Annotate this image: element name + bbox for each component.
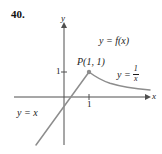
point-P	[87, 70, 91, 74]
y-axis	[61, 22, 67, 145]
function-label: y = f(x)	[99, 36, 129, 46]
line-y-equals-x	[36, 72, 89, 145]
x-axis	[14, 94, 151, 100]
hyperbola-equation-lhs: y =	[117, 70, 131, 80]
x-tick-label-1: 1	[87, 100, 92, 109]
fraction-numerator: 1	[133, 65, 139, 73]
fraction-one-over-x: 1 x	[133, 65, 139, 83]
y-axis-label: y	[61, 14, 65, 23]
figure-container: 40. y = f(x) P(1, 1) y = x y = 1 x	[0, 0, 162, 154]
y-tick-label-1: 1	[56, 67, 61, 76]
fraction-denominator: x	[133, 75, 139, 83]
x-axis-label: x	[152, 92, 156, 101]
hyperbola-equation-label: y = 1 x	[117, 66, 139, 84]
line-equation-label: y = x	[17, 108, 38, 118]
point-label: P(1, 1)	[77, 57, 105, 67]
